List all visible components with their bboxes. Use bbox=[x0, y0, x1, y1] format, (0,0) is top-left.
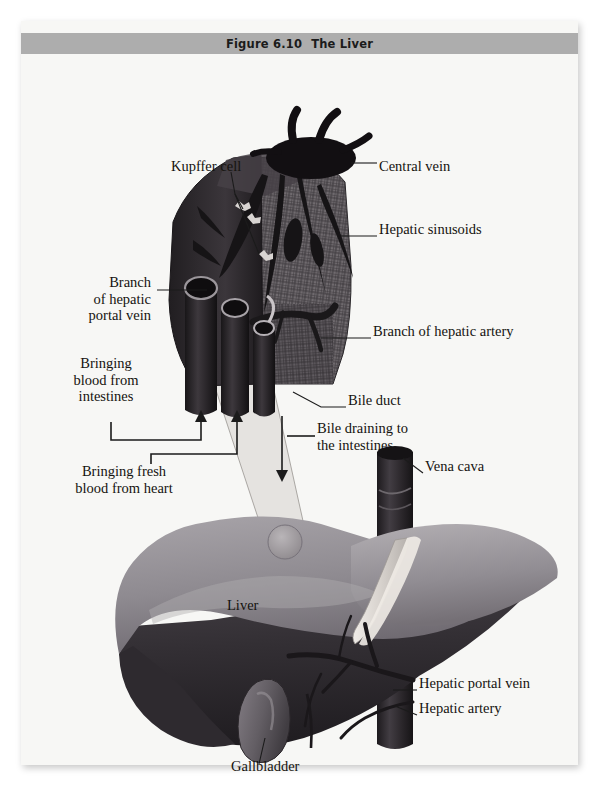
label-line-3: intestines bbox=[79, 388, 134, 404]
label-hepatic-sinusoids: Hepatic sinusoids bbox=[379, 221, 482, 238]
figure-caption: Figure 6.10The Liver bbox=[226, 37, 373, 51]
label-branch-hepatic-portal-vein: Branchof hepaticportal vein bbox=[21, 274, 151, 324]
label-line-1: Branch bbox=[109, 274, 151, 290]
illustration-canvas bbox=[21, 54, 578, 765]
figure-title-bar: Figure 6.10The Liver bbox=[21, 33, 578, 54]
label-branch-hepatic-artery: Branch of hepatic artery bbox=[373, 323, 514, 340]
label-line-2: of hepatic bbox=[93, 291, 151, 307]
label-line-2: the intestines bbox=[317, 437, 393, 453]
label-vena-cava: Vena cava bbox=[425, 458, 484, 475]
figure-page: Figure 6.10The Liver bbox=[21, 21, 578, 765]
label-line-3: portal vein bbox=[89, 307, 151, 323]
label-line-1: Bringing bbox=[80, 355, 132, 371]
label-central-vein: Central vein bbox=[379, 158, 450, 175]
label-line-1: Bringing fresh bbox=[82, 463, 166, 479]
liver-lobule-block bbox=[169, 110, 369, 417]
label-liver: Liver bbox=[227, 597, 258, 614]
label-bringing-blood-intestines: Bringingblood fromintestines bbox=[41, 355, 171, 405]
label-hepatic-portal-vein: Hepatic portal vein bbox=[419, 675, 530, 692]
figure-title: The Liver bbox=[311, 37, 373, 51]
label-gallbladder: Gallbladder bbox=[231, 758, 299, 775]
label-bile-duct: Bile duct bbox=[348, 392, 401, 409]
figure-number: Figure 6.10 bbox=[226, 37, 302, 51]
label-bile-draining-intestines: Bile draining tothe intestines bbox=[317, 420, 408, 453]
label-bringing-fresh-blood-heart: Bringing freshblood from heart bbox=[39, 463, 209, 496]
label-line-1: Bile draining to bbox=[317, 420, 408, 436]
lobule-sample-spot bbox=[268, 525, 302, 559]
label-line-2: blood from bbox=[74, 372, 139, 388]
label-line-2: blood from heart bbox=[75, 480, 172, 496]
label-kupffer-cell: Kupffer cell bbox=[171, 158, 241, 175]
liver-illustration: Kupffer cell Central vein Hepatic sinuso… bbox=[21, 54, 578, 765]
label-hepatic-artery: Hepatic artery bbox=[419, 700, 502, 717]
